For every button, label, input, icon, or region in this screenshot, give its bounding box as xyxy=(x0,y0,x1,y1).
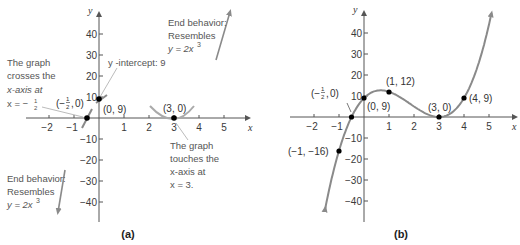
svg-text:2: 2 xyxy=(66,104,70,110)
svg-text:−40: −40 xyxy=(80,197,97,208)
svg-text:End behavior:: End behavior: xyxy=(168,17,227,28)
svg-text:touches the: touches the xyxy=(170,153,219,164)
figure: x y −2 −1 1 2 3 4 5 40 30 20 10 xyxy=(0,0,520,245)
svg-text:0): 0) xyxy=(75,98,84,109)
svg-text:2: 2 xyxy=(321,94,325,100)
svg-text:5: 5 xyxy=(221,122,227,133)
svg-text:30: 30 xyxy=(351,49,363,60)
svg-text:40: 40 xyxy=(86,29,98,40)
x-tick-labels: −2 −1 1 2 3 4 5 xyxy=(306,121,492,132)
svg-text:−2: −2 xyxy=(41,122,53,133)
svg-text:4: 4 xyxy=(196,122,202,133)
svg-text:The graph: The graph xyxy=(170,140,213,151)
svg-text:−1: −1 xyxy=(66,122,78,133)
svg-text:Resembles: Resembles xyxy=(168,30,216,41)
svg-text:x = 3.: x = 3. xyxy=(170,179,194,190)
svg-text:−30: −30 xyxy=(345,175,362,186)
svg-text:1: 1 xyxy=(66,96,70,102)
svg-text:End behavior:: End behavior: xyxy=(7,173,66,184)
svg-text:(1, 12): (1, 12) xyxy=(386,76,415,87)
svg-text:(−: (− xyxy=(311,88,320,99)
caption-b: (b) xyxy=(394,228,408,240)
svg-text:40: 40 xyxy=(351,28,363,39)
leader-intercept xyxy=(100,68,117,97)
svg-text:x = −: x = − xyxy=(7,98,29,109)
svg-text:30: 30 xyxy=(86,50,98,61)
x-tick-labels: −2 −1 1 2 3 4 5 xyxy=(41,122,227,133)
svg-text:1: 1 xyxy=(386,121,392,132)
svg-text:5: 5 xyxy=(486,121,492,132)
point-labels: (− 1 2 , 0) (0, 9) (3, 0) xyxy=(56,96,186,115)
svg-text:−40: −40 xyxy=(345,196,362,207)
svg-text:y = 2x: y = 2x xyxy=(167,43,195,54)
svg-text:−20: −20 xyxy=(80,155,97,166)
svg-text:20: 20 xyxy=(351,70,363,81)
svg-text:(0, 9): (0, 9) xyxy=(367,101,390,112)
caption-a: (a) xyxy=(121,228,135,240)
y-axis-label: y xyxy=(352,4,358,15)
svg-text:20: 20 xyxy=(86,71,98,82)
svg-text:−2: −2 xyxy=(306,121,318,132)
x-axis-label: x xyxy=(511,121,517,132)
annotation-touches: The graph touches the x-axis at x = 3. xyxy=(170,140,219,190)
svg-text:(−1, −16): (−1, −16) xyxy=(288,146,329,157)
svg-text:,: , xyxy=(326,88,329,99)
y-axis-label: y xyxy=(87,5,93,16)
annotation-end-behavior-top: End behavior: Resembles y = 2x 3 xyxy=(167,17,227,54)
svg-text:Resembles: Resembles xyxy=(7,186,55,197)
svg-text:(3, 0): (3, 0) xyxy=(163,103,186,114)
x-axis-label: x xyxy=(247,122,253,133)
svg-text:crosses the: crosses the xyxy=(7,70,56,81)
svg-text:1: 1 xyxy=(34,98,38,104)
svg-text:−10: −10 xyxy=(345,133,362,144)
svg-text:x-axis at: x-axis at xyxy=(170,166,206,177)
svg-text:(0, 9): (0, 9) xyxy=(103,104,126,115)
svg-text:1: 1 xyxy=(321,86,325,92)
svg-text:−20: −20 xyxy=(345,154,362,165)
svg-text:10: 10 xyxy=(86,92,98,103)
panel-b: x y −2 −1 1 2 3 4 5 40 30 20 10 xyxy=(288,4,517,240)
svg-text:−10: −10 xyxy=(80,134,97,145)
svg-text:4: 4 xyxy=(461,121,467,132)
svg-text:(−: (− xyxy=(56,98,65,109)
svg-text:x-axis at: x-axis at xyxy=(6,84,43,95)
svg-text:0): 0) xyxy=(330,88,339,99)
svg-text:3: 3 xyxy=(436,121,442,132)
svg-text:,: , xyxy=(71,98,74,109)
annotation-end-behavior-bottom: End behavior: Resembles y = 2x 3 xyxy=(6,173,66,210)
svg-text:2: 2 xyxy=(411,121,417,132)
svg-text:−30: −30 xyxy=(80,176,97,187)
svg-text:1: 1 xyxy=(121,122,127,133)
svg-text:(3, 0): (3, 0) xyxy=(428,102,451,113)
svg-text:2: 2 xyxy=(34,105,38,111)
svg-text:The graph: The graph xyxy=(7,57,50,68)
svg-text:3: 3 xyxy=(197,41,201,48)
leader-touch xyxy=(176,123,188,140)
leader-half xyxy=(347,103,351,112)
annotation-crosses: The graph crosses the x-axis at x = − 1 … xyxy=(6,57,56,111)
svg-text:(4, 9): (4, 9) xyxy=(469,93,492,104)
svg-text:2: 2 xyxy=(146,122,152,133)
svg-text:y = 2x: y = 2x xyxy=(6,199,34,210)
svg-text:−1: −1 xyxy=(331,121,343,132)
annotation-intercept: y -intercept: 9 xyxy=(108,57,166,68)
svg-text:3: 3 xyxy=(36,197,40,204)
panel-a: x y −2 −1 1 2 3 4 5 40 30 20 10 xyxy=(6,5,253,240)
